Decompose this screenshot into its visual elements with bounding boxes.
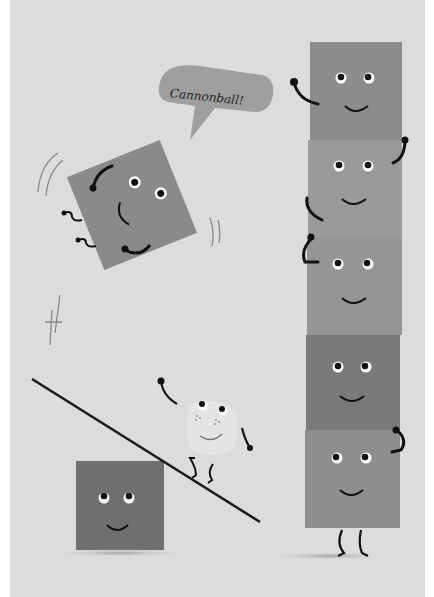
shadow bbox=[50, 549, 190, 557]
motion-line bbox=[46, 160, 63, 196]
illustration-canvas bbox=[0, 0, 434, 597]
tower-block-3 bbox=[307, 237, 402, 335]
tower-block-1 bbox=[310, 42, 402, 140]
tower-block-2 bbox=[308, 140, 402, 237]
tower-legs bbox=[338, 530, 368, 556]
scratch-mark bbox=[45, 295, 62, 345]
tower-block-4 bbox=[306, 335, 400, 432]
ground-block bbox=[76, 461, 164, 550]
shadow bbox=[270, 552, 390, 560]
motion-line bbox=[218, 220, 220, 243]
flying-block-leg bbox=[64, 212, 82, 220]
flying-block bbox=[67, 140, 197, 270]
motion-line bbox=[210, 218, 213, 246]
block-tower bbox=[305, 42, 402, 528]
tower-block-5 bbox=[305, 430, 400, 528]
